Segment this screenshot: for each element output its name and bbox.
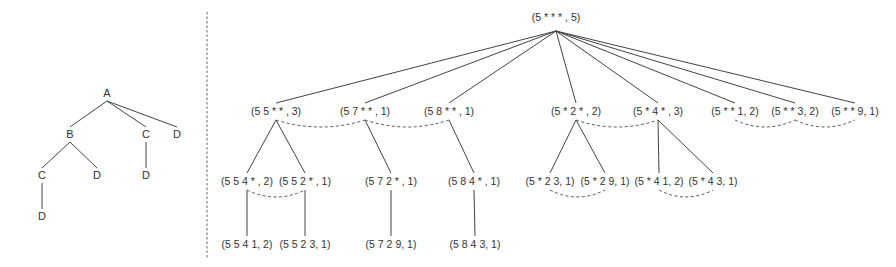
node-link-dashed — [576, 120, 658, 127]
node-link-dashed — [247, 190, 305, 197]
tree-edge — [449, 31, 556, 103]
tree-node-label: (5 8 4 3, 1) — [450, 238, 501, 250]
tree-node-label: D — [93, 169, 101, 181]
tree-edge — [276, 31, 556, 103]
tree-edge — [556, 31, 576, 103]
tree-node-label: A — [103, 87, 111, 99]
tree-node-label: D — [38, 210, 46, 222]
node-link-dashed — [659, 190, 713, 197]
tree-node-label: (5 * 2 * , 2) — [551, 105, 601, 117]
tree-edge — [365, 31, 556, 103]
tree-node-label: B — [66, 128, 73, 140]
tree-edge — [658, 120, 659, 173]
tree-edge — [107, 101, 177, 127]
tree-edge — [70, 101, 107, 127]
tree-edge — [70, 142, 97, 168]
tree-edge — [449, 120, 474, 173]
tree-node-label: (5 8 4 * , 1) — [448, 175, 500, 187]
tree-node-label: (5 * 2 3, 1) — [525, 175, 574, 187]
node-link-dashed — [795, 120, 855, 127]
tree-node-label: (5 * 4 3, 1) — [688, 175, 737, 187]
tree-node-label: D — [173, 128, 181, 140]
tree-edge — [658, 120, 713, 173]
tree-edge — [556, 31, 735, 103]
tree-node-label: (5 * * 3, 2) — [771, 105, 818, 117]
tree-edge — [107, 101, 146, 127]
tree-node-label: (5 5 4 1, 2) — [222, 238, 273, 250]
tree-node-label: (5 7 2 9, 1) — [366, 238, 417, 250]
tree-node-label: (5 5 2 * , 1) — [279, 175, 331, 187]
tree-node-label: (5 7 2 * , 1) — [365, 175, 417, 187]
tree-node-label: (5 * 4 * , 3) — [633, 105, 683, 117]
tree-node-label: (5 * * 1, 2) — [711, 105, 758, 117]
tree-edge — [556, 31, 855, 103]
tree-node-label: (5 8 * * , 1) — [424, 105, 474, 117]
right-tree-edges — [247, 31, 855, 236]
tree-node-label: (5 5 * * , 3) — [251, 105, 301, 117]
tree-node-label: C — [142, 128, 150, 140]
tree-node-label: D — [142, 169, 150, 181]
tree-node-label: (5 7 * * , 1) — [340, 105, 390, 117]
tree-node-label: C — [38, 169, 46, 181]
tree-edge — [550, 120, 576, 173]
node-link-dashed — [276, 120, 365, 127]
fp-tree-diagram: ABCDCDDD (5 * * * , 5)(5 5 * * , 3)(5 7 … — [0, 0, 896, 267]
node-link-dashed — [365, 120, 449, 127]
tree-edge — [247, 120, 276, 173]
tree-edge — [42, 142, 70, 168]
node-link-dashed — [550, 190, 605, 197]
tree-edge — [576, 120, 605, 173]
tree-node-label: (5 * 2 9, 1) — [580, 175, 629, 187]
tree-node-label: (5 * * 9, 1) — [831, 105, 878, 117]
tree-node-label: (5 5 4 * , 2) — [221, 175, 273, 187]
tree-node-label: (5 * 4 1, 2) — [634, 175, 683, 187]
tree-edge — [276, 120, 305, 173]
tree-node-label: (5 5 2 3, 1) — [280, 238, 331, 250]
right-tree-nodes: (5 * * * , 5)(5 5 * * , 3)(5 7 * * , 1)(… — [221, 11, 879, 250]
tree-edge — [556, 31, 658, 103]
tree-edge — [556, 31, 795, 103]
tree-edge — [365, 120, 391, 173]
left-prefix-tree: ABCDCDDD — [38, 87, 181, 222]
node-link-dashed — [735, 120, 795, 127]
tree-edge — [474, 190, 475, 236]
tree-node-label: (5 * * * , 5) — [532, 11, 580, 23]
